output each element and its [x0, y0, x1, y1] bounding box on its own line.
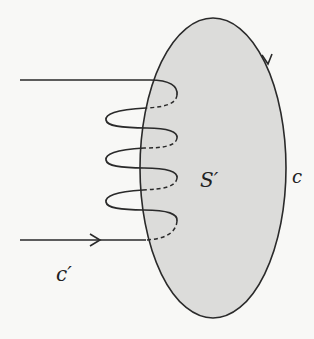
label-boundary-curve: c [292, 166, 302, 187]
diagram: S′ c c′ [0, 0, 314, 339]
label-coil-curve: c′ [56, 262, 72, 286]
diagram-graphics [0, 0, 314, 339]
label-surface: S′ [200, 168, 218, 192]
